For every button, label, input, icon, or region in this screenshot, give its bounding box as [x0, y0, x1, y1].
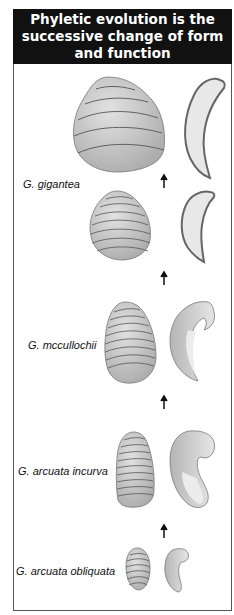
- shell-gigantea-inner: [185, 79, 225, 178]
- up-arrow-icon: [161, 175, 167, 188]
- up-arrow-icon: [161, 272, 167, 285]
- shell-incurva-outer: [116, 432, 154, 507]
- up-arrow-icon: [161, 396, 167, 409]
- species-label: G. gigantea: [23, 178, 80, 190]
- shell-2-outer: [90, 191, 151, 260]
- shell-obliquata-outer: [126, 548, 150, 590]
- shell-incurva-inner: [170, 431, 215, 508]
- shell-mccullochii-inner: [170, 302, 215, 381]
- up-arrow-icon: [161, 525, 167, 538]
- species-label: G. arcuata obliquata: [16, 565, 115, 577]
- species-label: G. arcuata incurva: [18, 465, 108, 477]
- shell-gigantea-outer: [73, 77, 164, 172]
- species-label: G. mccullochii: [28, 339, 96, 351]
- shell-mccullochii-outer: [105, 302, 156, 383]
- shell-obliquata-inner: [165, 549, 189, 592]
- shell-illustrations: [0, 0, 234, 615]
- shell-2-inner: [182, 192, 215, 262]
